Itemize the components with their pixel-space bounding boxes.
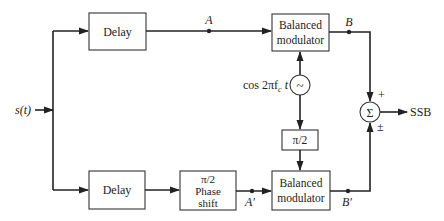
- phase-shift-line2: Phase: [195, 185, 221, 197]
- phase-shift-block: π/2 Phase shift: [180, 171, 236, 210]
- wire-bm-top-to-sum: [329, 32, 370, 101]
- delay-bottom-label: Delay: [103, 183, 132, 197]
- phase-shift-line3: shift: [198, 197, 218, 209]
- output-label: SSB: [410, 105, 431, 119]
- wire-bm-bottom-to-sum: [330, 123, 370, 191]
- oscillator-label: cos 2πfc t: [243, 78, 289, 94]
- input-wire: [35, 31, 88, 190]
- node-a-dot: [207, 29, 211, 33]
- phase-shift-line1: π/2: [201, 173, 215, 185]
- oscillator-block: ~: [290, 75, 310, 95]
- phase90-carrier-block: π/2: [282, 130, 318, 150]
- balanced-modulator-bottom-block: Balanced modulator: [272, 171, 330, 210]
- bm-top-line2: modulator: [277, 34, 324, 46]
- plus-sign-label: +: [378, 88, 385, 102]
- node-b-dot: [347, 30, 351, 34]
- plus-minus-sign-label: ±: [377, 120, 384, 134]
- sigma-icon: Σ: [367, 106, 374, 120]
- node-a-prime-label: A′: [244, 195, 255, 209]
- node-a-prime-dot: [250, 189, 254, 193]
- node-a-label: A: [204, 13, 213, 27]
- bm-bottom-line1: Balanced: [280, 177, 323, 189]
- node-b-prime-label: B′: [342, 195, 352, 209]
- sine-wave-icon: ~: [296, 78, 303, 93]
- bm-bottom-line2: modulator: [277, 192, 324, 204]
- delay-top-block: Delay: [89, 13, 146, 50]
- ssb-modulator-diagram: s(t) Delay A Balanced modulator B ~ cos …: [0, 0, 444, 221]
- delay-top-label: Delay: [103, 25, 132, 39]
- delay-bottom-block: Delay: [89, 171, 145, 209]
- input-label: s(t): [15, 103, 31, 117]
- node-b-label: B: [345, 15, 353, 29]
- summer-block: Σ: [360, 102, 380, 122]
- phase90-carrier-label: π/2: [293, 134, 308, 146]
- bm-top-line1: Balanced: [279, 19, 322, 31]
- balanced-modulator-top-block: Balanced modulator: [272, 14, 329, 51]
- node-b-prime-dot: [346, 189, 350, 193]
